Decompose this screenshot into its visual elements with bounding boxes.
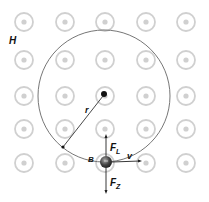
field-out-of-page-icon xyxy=(56,51,74,69)
force-up-label: FL xyxy=(110,142,120,155)
field-out-of-page-icon xyxy=(15,51,33,69)
force-down-arrowhead xyxy=(105,190,108,194)
field-out-of-page-icon xyxy=(96,120,114,138)
circle-center-dot xyxy=(101,91,107,97)
field-out-of-page-icon xyxy=(137,120,155,138)
radius-end-dot xyxy=(61,145,64,148)
field-out-of-page-icon xyxy=(177,13,195,31)
field-out-of-page-icon xyxy=(15,87,33,105)
charged-particle xyxy=(100,156,112,168)
velocity-arrowhead xyxy=(138,160,142,163)
field-out-of-page-icon xyxy=(56,87,74,105)
field-out-of-page-icon xyxy=(56,154,74,172)
force-down-label: FZ xyxy=(110,177,121,190)
field-out-of-page-icon xyxy=(96,51,114,69)
field-out-of-page-icon xyxy=(15,13,33,31)
field-out-of-page-icon xyxy=(177,87,195,105)
field-out-of-page-icon xyxy=(15,120,33,138)
field-out-of-page-icon xyxy=(15,154,33,172)
field-out-of-page-icon xyxy=(96,13,114,31)
field-label-h: H xyxy=(9,35,17,46)
diagram-canvas: r H FL FZ v B xyxy=(0,0,209,202)
diagram-svg: r H FL FZ v B xyxy=(0,0,209,202)
field-out-of-page-icon xyxy=(56,120,74,138)
radius-label: r xyxy=(85,105,89,115)
field-out-of-page-icon xyxy=(56,13,74,31)
force-up-arrowhead xyxy=(105,134,108,138)
field-out-of-page-icon xyxy=(137,13,155,31)
field-out-of-page-icon xyxy=(137,87,155,105)
particle-label: B xyxy=(88,155,94,164)
field-out-of-page-icon xyxy=(177,154,195,172)
field-out-of-page-icon xyxy=(137,154,155,172)
field-out-of-page-icon xyxy=(177,120,195,138)
field-out-of-page-icon xyxy=(177,51,195,69)
field-out-of-page-icon xyxy=(137,51,155,69)
